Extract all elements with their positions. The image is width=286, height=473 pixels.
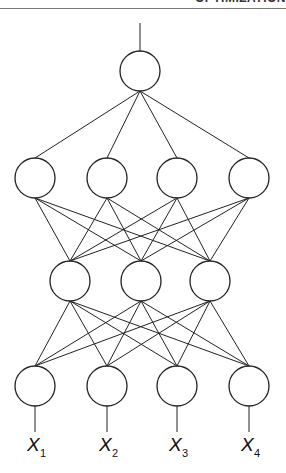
edge-hidden-1-2-to-input-2 — [177, 301, 210, 366]
edge-hidden-2-3-to-hidden-1-0 — [70, 198, 249, 261]
edge-hidden-2-2-to-hidden-1-2 — [177, 198, 210, 261]
node-hidden-1-2 — [121, 261, 161, 301]
input-label-4: X — [240, 434, 255, 455]
edge-output-0-to-hidden-2-0 — [35, 91, 140, 158]
edge-hidden-1-0-to-input-0 — [35, 301, 70, 366]
edge-hidden-2-1-to-hidden-1-0 — [70, 198, 107, 261]
edge-hidden-2-3-to-hidden-1-2 — [210, 198, 249, 261]
input-label-1: X — [26, 434, 41, 455]
node-input-1 — [15, 366, 55, 406]
neural-network-diagram: X1X2X3X4 — [0, 0, 286, 473]
input-label-subscript-3: 3 — [182, 447, 188, 459]
edge-hidden-1-1-to-input-1 — [107, 301, 141, 366]
edge-hidden-1-1-to-input-0 — [35, 301, 141, 366]
nodes-group — [15, 51, 269, 406]
input-label-subscript-4: 4 — [254, 447, 260, 459]
node-hidden-1-1 — [50, 261, 90, 301]
node-input-3 — [157, 366, 197, 406]
node-hidden-2-3 — [157, 158, 197, 198]
edge-hidden-2-0-to-hidden-1-0 — [35, 198, 70, 261]
input-label-subscript-2: 2 — [112, 447, 118, 459]
edge-hidden-1-2-to-input-3 — [210, 301, 249, 366]
node-hidden-1-3 — [190, 261, 230, 301]
edge-output-0-to-hidden-2-2 — [140, 91, 177, 158]
node-output-1 — [120, 51, 160, 91]
node-hidden-2-4 — [229, 158, 269, 198]
node-input-2 — [87, 366, 127, 406]
node-hidden-2-1 — [15, 158, 55, 198]
input-label-subscript-1: 1 — [40, 447, 46, 459]
input-label-3: X — [168, 434, 183, 455]
node-input-4 — [229, 366, 269, 406]
node-hidden-2-2 — [87, 158, 127, 198]
edge-output-0-to-hidden-2-3 — [140, 91, 249, 158]
input-label-2: X — [98, 434, 113, 455]
input-labels-group: X1X2X3X4 — [26, 434, 260, 459]
